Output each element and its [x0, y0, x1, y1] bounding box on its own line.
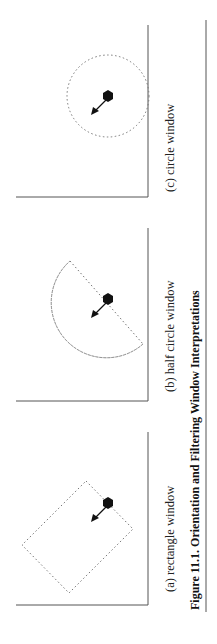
hexagon-marker-icon: [103, 293, 113, 305]
panel-c-label: (c) circle window: [163, 104, 177, 192]
panel-b: (b) half circle window: [16, 228, 177, 401]
panel-a: (a) rectangle window: [16, 432, 177, 605]
half-circle-arc: [51, 261, 143, 358]
panel-c: (c) circle window: [16, 25, 177, 197]
panel-b-label: (b) half circle window: [163, 281, 177, 392]
rectangle-window: [22, 481, 133, 593]
hexagon-marker-icon: [103, 90, 113, 102]
panel-a-label: (a) rectangle window: [163, 486, 177, 592]
figure: (c) circle window (b) half circle window…: [0, 0, 217, 644]
figure-caption: Figure 11.1. Orientation and Filtering W…: [188, 290, 202, 610]
orientation-arrow: [95, 303, 106, 314]
orientation-arrow: [95, 507, 106, 518]
half-circle-window: [51, 261, 143, 358]
